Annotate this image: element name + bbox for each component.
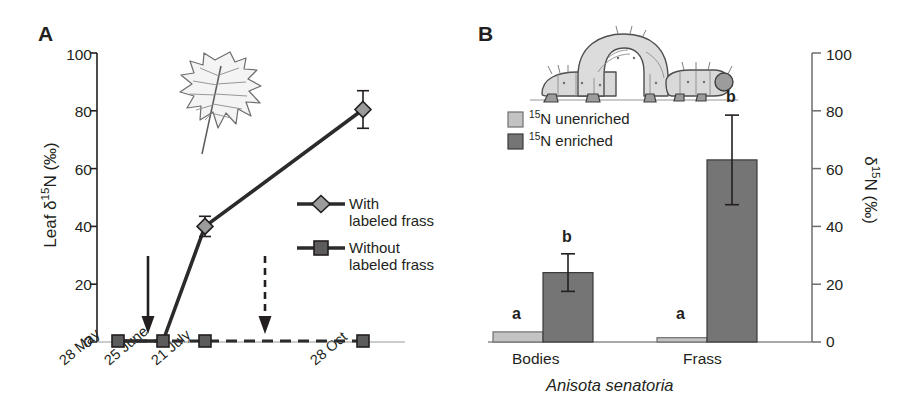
- sig-letter-frass-enriched: b: [726, 88, 736, 106]
- annotation-arrow-dashed: [259, 256, 272, 334]
- panel-b-legend-label-enriched: 15N enriched: [529, 132, 613, 149]
- legend-without-line2: labeled frass: [349, 256, 434, 273]
- panel-b: B δ15N (‰) 100 80 60 40 20 0: [460, 0, 919, 415]
- figure-container: A Leaf δ15N (‰) 100 80 60 40 20 0 28 May…: [0, 0, 919, 415]
- panel-a-legend-label-without: Without labeled frass: [349, 239, 434, 273]
- panel-b-legend-label-unenriched: 15N unenriched: [529, 110, 630, 127]
- panel-b-legend-swatch-unenriched: [508, 112, 523, 127]
- legend-with-line2: labeled frass: [349, 212, 434, 229]
- panel-b-xtick-frass: Frass: [683, 350, 722, 368]
- legend-enriched-superscript: 15: [529, 131, 540, 142]
- series-with-labeled-frass-line: [163, 110, 363, 342]
- panel-b-species-label: Anisota senatoria: [546, 376, 674, 395]
- bar-bodies-unenriched: [493, 332, 543, 342]
- sig-letter-bodies-enriched: b: [562, 228, 572, 246]
- legend-unenriched-text: N unenriched: [540, 110, 629, 127]
- panel-b-legend-swatch-enriched: [508, 134, 523, 149]
- panel-a-legend-symbol-without: [297, 241, 345, 255]
- sig-letter-frass-unenriched: a: [676, 305, 685, 323]
- panel-a-legend-symbol-with: [297, 196, 345, 213]
- caterpillar-icon: [530, 26, 738, 102]
- sig-letter-bodies-unenriched: a: [512, 305, 521, 323]
- panel-a-legend-label-with: With labeled frass: [349, 195, 434, 229]
- annotation-arrow-solid: [142, 256, 155, 334]
- oak-leaf-icon: [180, 52, 261, 154]
- legend-enriched-text: N enriched: [540, 132, 613, 149]
- panel-a: A Leaf δ15N (‰) 100 80 60 40 20 0 28 May…: [0, 0, 460, 415]
- legend-without-line1: Without: [349, 239, 400, 256]
- panel-b-xtick-bodies: Bodies: [512, 350, 559, 368]
- legend-unenriched-superscript: 15: [529, 109, 540, 120]
- bar-frass-unenriched: [657, 338, 707, 342]
- legend-with-line1: With: [349, 195, 379, 212]
